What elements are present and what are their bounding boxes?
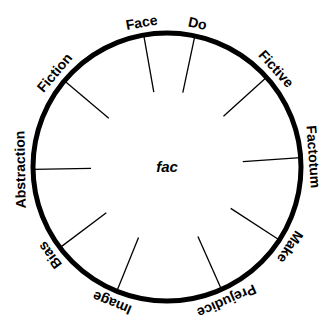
spoke-line <box>60 213 106 248</box>
spoke-label: Bias <box>34 239 65 272</box>
spoke-line <box>183 36 195 93</box>
spoke-line <box>64 81 108 118</box>
spoke-line <box>243 158 301 162</box>
spoke-line <box>223 77 266 116</box>
spoke-line <box>231 208 280 240</box>
spoke-line <box>198 236 222 289</box>
spoke-label: Abstraction <box>11 131 28 209</box>
spoke-label: Face <box>124 12 158 33</box>
spoke-line <box>144 35 154 92</box>
center-label: fac <box>156 158 178 175</box>
spoke-label: Do <box>187 13 209 33</box>
spoke-label: Factotum <box>303 125 323 189</box>
spoke-line <box>117 237 139 291</box>
word-wheel-diagram: FaceDoFictiveFactotumMakePrejudiceImageB… <box>0 0 331 334</box>
spoke-line <box>33 168 91 169</box>
spoke-label: Make <box>274 228 307 266</box>
